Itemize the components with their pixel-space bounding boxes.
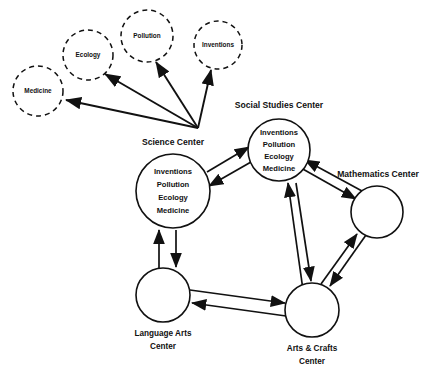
topic-ecology-label: Ecology (76, 51, 101, 59)
node-language-arts-center-circle[interactable] (136, 268, 190, 322)
node-science-center[interactable]: Science Center Inventions Pollution Ecol… (136, 137, 210, 228)
edge-science-to-ecology (105, 74, 198, 128)
node-social-studies-center[interactable]: Social Studies Center Inventions Polluti… (235, 100, 324, 181)
node-language-arts-center[interactable]: Language Arts Center (134, 268, 191, 351)
topic-ecology[interactable]: Ecology (63, 30, 113, 80)
node-arts-crafts-center-label-line1: Arts & Crafts (287, 344, 338, 353)
edge-social-studies-to-arts-crafts (296, 183, 311, 281)
node-science-center-circle[interactable] (136, 154, 210, 228)
social-studies-item-pollution: Pollution (263, 140, 296, 149)
node-arts-crafts-center-label-line2: Center (299, 357, 326, 366)
science-item-medicine: Medicine (157, 206, 190, 215)
edge-science-to-medicine (66, 100, 198, 128)
diagram-canvas: Medicine Ecology Pollution Inventions Sc… (0, 0, 428, 375)
edge-social-studies-arts-crafts (288, 183, 311, 290)
edge-mathematics-arts-crafts (321, 234, 366, 286)
node-mathematics-center[interactable]: Mathematics Center (337, 169, 419, 238)
edge-arts-crafts-to-social-studies (288, 183, 303, 290)
node-language-arts-center-label-line2: Center (150, 342, 177, 351)
node-language-arts-center-label-line1: Language Arts (134, 329, 191, 338)
diagram-svg: Medicine Ecology Pollution Inventions Sc… (0, 0, 428, 375)
node-social-studies-center-label: Social Studies Center (235, 100, 324, 110)
edge-science-social-studies (207, 147, 251, 186)
edge-science-to-pollution (156, 62, 198, 128)
social-studies-item-medicine: Medicine (263, 164, 296, 173)
edge-language-arts-to-arts-crafts (190, 290, 285, 303)
edge-arts-crafts-to-language-arts (192, 303, 286, 316)
topic-pollution[interactable]: Pollution (121, 10, 173, 62)
edge-social-studies-to-science (209, 162, 251, 186)
edge-language-arts-science (159, 230, 176, 268)
topic-medicine[interactable]: Medicine (13, 66, 63, 116)
node-mathematics-center-label: Mathematics Center (337, 169, 419, 179)
topic-inventions-label: Inventions (202, 41, 234, 48)
science-item-pollution: Pollution (157, 180, 190, 189)
edge-social-studies-mathematics (301, 160, 362, 199)
topic-inventions[interactable]: Inventions (194, 21, 242, 69)
science-item-ecology: Ecology (158, 193, 188, 202)
node-arts-crafts-center[interactable]: Arts & Crafts Center (285, 283, 339, 366)
edge-science-to-social-studies (207, 147, 249, 172)
edge-mathematics-to-arts-crafts (330, 235, 366, 286)
node-science-center-label: Science Center (142, 137, 205, 147)
topic-medicine-label: Medicine (24, 87, 52, 94)
node-arts-crafts-center-circle[interactable] (285, 283, 339, 337)
science-item-inventions: Inventions (154, 167, 192, 176)
edge-arts-crafts-language-arts (190, 290, 286, 316)
social-studies-item-ecology: Ecology (264, 152, 294, 161)
node-mathematics-center-circle[interactable] (351, 186, 403, 238)
social-studies-item-inventions: Inventions (260, 128, 298, 137)
edge-arts-crafts-to-mathematics (321, 234, 357, 284)
topic-pollution-label: Pollution (133, 32, 160, 39)
edge-science-to-inventions (198, 70, 211, 128)
